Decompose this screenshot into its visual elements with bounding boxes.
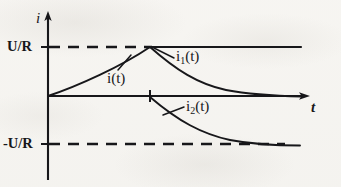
curve-label-i1-subscript: 1	[180, 55, 185, 66]
curve-label-i1-of-t: i1(t)	[176, 49, 199, 64]
figure-container: i t U/R -U/R i(t) i1(t) i2(t)	[0, 0, 341, 187]
y-tick-label-positive: U/R	[7, 39, 32, 54]
y-axis-label: i	[36, 11, 40, 26]
leader-lines-group	[118, 47, 184, 115]
curve-label-i2-suffix: (t)	[195, 98, 209, 114]
x-axis-label: t	[311, 100, 315, 115]
curve-i-of-t-decay	[150, 47, 302, 97]
curve-label-i2-of-t: i2(t)	[186, 99, 209, 114]
curve-label-i-of-t: i(t)	[107, 71, 125, 86]
curve-i2-of-t	[150, 97, 300, 146]
curve-label-i1-suffix: (t)	[185, 48, 199, 64]
current-vs-time-plot	[0, 0, 341, 187]
leader-line-i-of-t	[118, 55, 131, 70]
curve-i-of-t-rising	[48, 47, 150, 96]
curve-label-i2-subscript: 2	[190, 105, 195, 116]
y-tick-label-negative: -U/R	[3, 136, 33, 151]
